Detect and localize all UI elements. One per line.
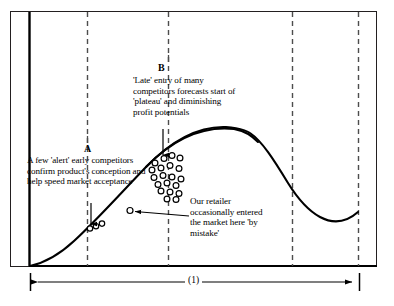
retailer-entry-marker	[127, 208, 133, 214]
retailer-callout-arrow	[135, 212, 189, 217]
cluster-marker	[151, 175, 157, 181]
cluster-marker	[173, 197, 179, 203]
cluster-marker	[152, 160, 158, 166]
cluster-marker	[160, 173, 166, 179]
cluster-marker	[169, 174, 175, 180]
cluster-marker	[99, 221, 104, 226]
product-life-cycle-figure: A B A few 'alert' early competitors conf…	[0, 0, 394, 306]
cluster-marker	[161, 156, 167, 162]
cluster-marker	[164, 196, 170, 202]
cluster-marker	[127, 208, 133, 214]
cluster-marker	[158, 165, 164, 171]
cluster-marker	[176, 166, 182, 172]
cluster-marker	[173, 183, 179, 189]
late-competitors-cluster	[149, 153, 184, 203]
axis-span-label: (1)	[185, 275, 202, 285]
cluster-marker	[93, 224, 98, 229]
cluster-marker	[155, 182, 161, 188]
cluster-marker	[158, 188, 164, 194]
marker-label-a: A	[84, 143, 91, 154]
cluster-marker	[177, 155, 183, 161]
annotation-b-text: 'Late' entry of many competitors forecas…	[133, 75, 241, 117]
cluster-marker	[167, 189, 173, 195]
cluster-marker	[167, 163, 173, 169]
early-competitors-cluster	[87, 221, 104, 231]
cluster-marker	[176, 191, 182, 197]
cluster-marker	[87, 226, 92, 231]
cluster-marker	[164, 180, 170, 186]
annotation-retailer-text: Our retailer occasionally entered the ma…	[190, 196, 268, 238]
marker-label-b: B	[158, 62, 165, 73]
annotation-a-text: A few 'alert' early competitors confirm …	[27, 155, 149, 187]
cluster-marker	[149, 167, 155, 173]
cluster-marker	[178, 176, 184, 182]
cluster-marker	[169, 153, 175, 159]
chart-canvas	[0, 0, 394, 306]
